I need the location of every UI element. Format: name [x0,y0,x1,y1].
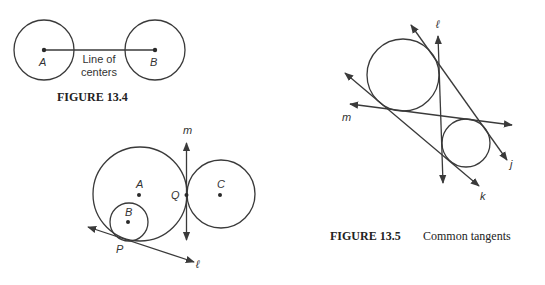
figure-13-5: ℓ m j k FIGURE 13.5 Common tangents [330,18,513,243]
line-of-centers-label-1: Line of [82,53,116,65]
label-j: j [508,158,513,170]
figure-13-5-caption-text: Common tangents [423,229,511,243]
label-p: P [116,243,124,255]
label-k: k [480,190,486,202]
figure-13-5-caption-bold: FIGURE 13.5 [330,229,401,243]
tangent-line-k [345,73,479,186]
figures-canvas: A B Line of centers FIGURE 13.4 m A B C … [0,0,545,285]
center-b-point [126,220,130,224]
tangent-line-l [438,36,443,183]
label-b: B [125,206,132,218]
figure-13-4: A B Line of centers FIGURE 13.4 [14,20,185,104]
label-a: A [38,56,46,68]
label-b: B [150,56,157,68]
label-c: C [217,178,225,190]
label-m: m [183,124,192,136]
center-a-point [137,193,141,197]
label-a: A [135,178,143,190]
center-a-point [42,48,46,52]
figure-13-4-caption: FIGURE 13.4 [57,90,128,104]
figure-tangent-circles: m A B C Q P ℓ [88,124,255,270]
line-of-centers-label-2: centers [81,66,118,78]
label-l: ℓ [195,258,200,270]
label-l: ℓ [435,18,440,30]
center-c-point [218,193,222,197]
label-q: Q [171,189,180,201]
tangent-line-m [350,104,512,125]
tangent-line-l [88,227,194,262]
point-q [185,193,189,197]
label-m: m [342,111,351,123]
tangent-line-j [411,25,507,160]
center-b-point [153,48,157,52]
